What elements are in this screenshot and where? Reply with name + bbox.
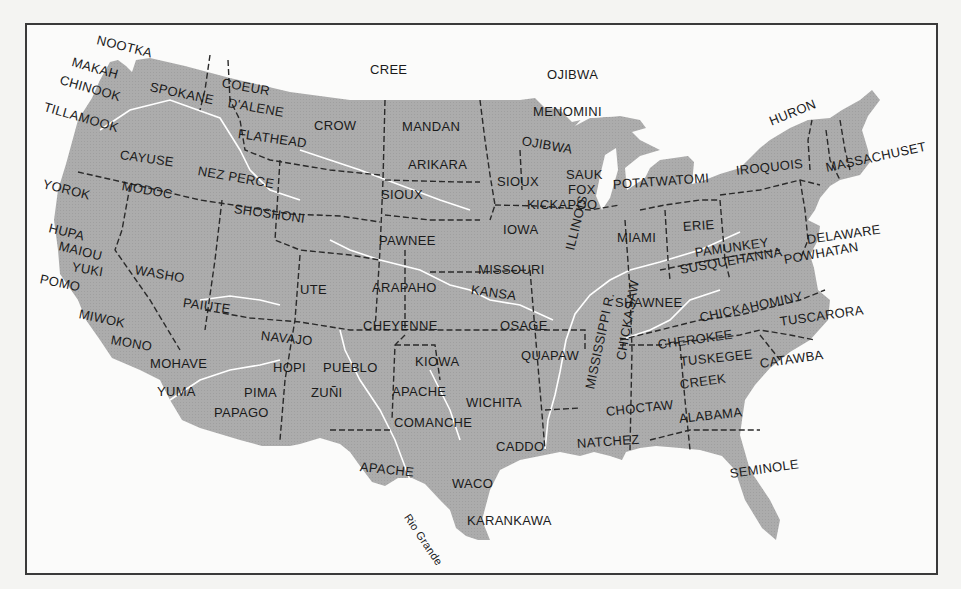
tribe-label-arapaho: ARAPAHO	[372, 281, 437, 295]
tribe-label-iowa: IOWA	[503, 223, 538, 237]
tribe-label-ute: UTE	[300, 283, 327, 297]
tribe-label-papago: PAPAGO	[214, 406, 269, 420]
tribe-label-waco: WACO	[452, 477, 493, 491]
tribe-label-hopi: HOPI	[273, 361, 306, 375]
tribe-label-quapaw: QUAPAW	[521, 349, 579, 363]
tribe-label-sauk: SAUK	[566, 168, 603, 182]
tribe-label-sioux: SIOUX	[381, 188, 423, 202]
tribe-label-pawnee: PAWNEE	[379, 234, 436, 248]
tribe-label-cree: CREE	[370, 63, 407, 77]
tribe-label-zu-i: ZUÑI	[311, 386, 343, 400]
tribe-label-kiowa: KIOWA	[415, 355, 459, 369]
tribe-label-yuma: YUMA	[157, 385, 196, 399]
tribe-label-ojibwa: OJIBWA	[547, 68, 598, 82]
tribe-label-sioux: SIOUX	[497, 175, 539, 189]
tribe-label-osage: OSAGE	[500, 319, 548, 333]
tribe-label-pueblo: PUEBLO	[323, 361, 378, 375]
tribe-label-erie: ERIE	[683, 218, 715, 234]
tribe-label-mandan: MANDAN	[402, 120, 460, 134]
tribe-label-crow: CROW	[314, 119, 356, 133]
tribe-label-mohave: MOHAVE	[150, 357, 207, 371]
tribe-label-karankawa: KARANKAWA	[467, 514, 552, 528]
tribe-label-arikara: ARIKARA	[408, 158, 467, 172]
tribe-label-pima: PIMA	[244, 386, 277, 400]
tribe-label-miami: MIAMI	[617, 231, 656, 245]
tribe-label-cheyenne: CHEYENNE	[363, 319, 438, 333]
tribe-label-apache: APACHE	[392, 385, 446, 399]
tribe-label-comanche: COMANCHE	[394, 416, 472, 430]
tribe-label-wichita: WICHITA	[466, 396, 522, 410]
tribe-label-caddo: CADDO	[496, 440, 544, 454]
tribe-label-missouri: MISSOURI	[478, 263, 545, 277]
tribe-label-menomini: MENOMINI	[533, 105, 602, 119]
